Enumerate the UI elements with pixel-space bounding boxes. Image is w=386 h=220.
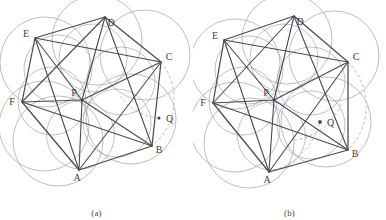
outer-circle-0 — [204, 98, 294, 188]
center-point-marker — [273, 99, 276, 102]
marked-point-label-Q: Q — [327, 117, 335, 128]
segment-PA — [79, 100, 82, 170]
outer-circle-3 — [52, 0, 142, 85]
panel-b: ABCDEFPQ — [193, 0, 386, 196]
segment-PB — [82, 100, 152, 146]
vertex-label-D: D — [296, 16, 303, 27]
panel-b-caption: (b) — [193, 208, 386, 218]
panel-b-drawing: ABCDEFPQ — [193, 0, 386, 196]
segment-EA — [35, 38, 79, 170]
vertex-label-D: D — [107, 17, 114, 28]
segment-CE — [224, 40, 348, 62]
vertex-label-E: E — [23, 28, 29, 39]
segment-EA — [224, 40, 269, 172]
marked-point-label-Q: Q — [166, 113, 174, 124]
marked-point-marker — [158, 117, 161, 120]
center-point-marker — [81, 99, 84, 102]
vertex-label-A: A — [73, 172, 81, 183]
petal-circle-3 — [59, 24, 127, 92]
vertex-label-C: C — [353, 51, 360, 62]
hexagon-outline — [213, 16, 348, 172]
vertex-label-F: F — [200, 97, 206, 108]
figure-container: ABCDEFPQ (a) ABCDEFPQ (b) — [0, 0, 386, 220]
outer-circle-3 — [242, 0, 332, 84]
vertex-label-A: A — [263, 174, 271, 185]
segment-PB — [274, 100, 348, 150]
panel-a-caption: (a) — [0, 208, 193, 218]
vertex-label-C: C — [166, 51, 173, 62]
segment-DF — [213, 16, 294, 103]
marked-point-marker — [318, 120, 321, 123]
dashed-arc-0 — [348, 62, 366, 150]
center-label-P: P — [263, 87, 269, 98]
vertex-label-B: B — [352, 148, 359, 159]
panel-a: ABCDEFPQ — [0, 0, 193, 196]
vertex-label-B: B — [156, 144, 163, 155]
vertex-label-E: E — [212, 30, 218, 41]
center-label-P: P — [71, 87, 77, 98]
vertex-label-F: F — [9, 96, 15, 107]
segment-PD — [274, 16, 294, 100]
segment-PC — [82, 62, 161, 100]
panel-a-drawing: ABCDEFPQ — [0, 0, 193, 196]
dashed-arc-0 — [152, 62, 174, 146]
segment-PA — [269, 100, 274, 172]
